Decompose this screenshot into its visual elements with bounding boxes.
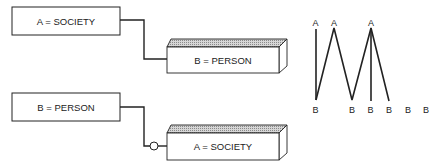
circle-marker-icon <box>150 142 158 150</box>
person-box-3d: B = PERSON <box>167 39 287 73</box>
top-panel: A = SOCIETY B = PERSON <box>12 7 287 73</box>
connector-line <box>120 20 167 59</box>
zigzag-label-b: B <box>405 105 411 115</box>
zigzag-label-b: B <box>349 105 355 115</box>
zigzag-label-b: B <box>367 105 373 115</box>
person-box-label: B = PERSON <box>194 55 251 66</box>
zigzag-diagram: A A A B B B B B B <box>312 18 429 115</box>
zigzag-label-a: A <box>312 18 318 28</box>
society-box-label: A = SOCIETY <box>194 141 253 152</box>
bottom-panel: B = PERSON A = SOCIETY <box>12 93 287 160</box>
connector-line <box>120 107 150 146</box>
zigzag-label-b: B <box>312 105 318 115</box>
society-box-label: A = SOCIETY <box>37 16 96 27</box>
box-top-face <box>167 39 287 47</box>
zigzag-label-a: A <box>331 18 337 28</box>
zigzag-label-b: B <box>423 105 429 115</box>
diagram-canvas: A = SOCIETY B = PERSON B = PERSON A = SO… <box>0 0 431 167</box>
zigzag-label-b: B <box>386 105 392 115</box>
person-box-label: B = PERSON <box>37 102 94 113</box>
box-top-face <box>167 125 287 133</box>
zigzag-lines <box>316 28 389 101</box>
society-box-3d: A = SOCIETY <box>167 125 287 160</box>
zigzag-label-a: A <box>368 18 374 28</box>
